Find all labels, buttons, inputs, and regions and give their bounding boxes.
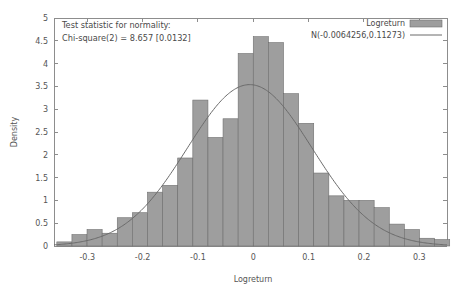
y-tick-label: 0.5 <box>35 219 48 228</box>
y-tick-label: 2.5 <box>35 128 48 137</box>
histogram-bar <box>178 158 193 246</box>
x-tick-label: 0.3 <box>413 253 426 262</box>
x-axis-title: Logreturn <box>234 275 273 284</box>
y-tick-label: 4.5 <box>35 37 48 46</box>
histogram-bar <box>329 196 344 246</box>
y-tick-label: 3.5 <box>35 82 48 91</box>
y-tick-label: 2 <box>43 151 48 160</box>
y-tick-label: 3 <box>43 105 48 114</box>
histogram-bar <box>374 208 389 246</box>
histogram-bar <box>299 123 314 246</box>
y-tick-label: 1 <box>43 196 48 205</box>
histogram-bar <box>117 218 132 246</box>
y-tick-label: 0 <box>43 242 48 251</box>
histogram-bar <box>344 200 359 246</box>
x-tick-label: 0 <box>251 253 256 262</box>
x-tick-label: 0.2 <box>358 253 371 262</box>
histogram-bar <box>163 185 178 246</box>
x-tick-label: -0.3 <box>79 253 95 262</box>
histogram-bar <box>253 37 268 246</box>
histogram-bar <box>314 173 329 246</box>
annotation-line-2: Chi-square(2) = 8.657 [0.0132] <box>62 33 191 43</box>
legend-label-curve: N(-0.0064256,0.11273) <box>311 31 405 40</box>
legend-label-histogram: Logreturn <box>366 19 405 28</box>
histogram-bar <box>223 119 238 246</box>
x-tick-label: -0.1 <box>190 253 206 262</box>
histogram-bar <box>132 213 147 246</box>
histogram-bar <box>87 230 102 246</box>
x-tick-label: -0.2 <box>135 253 151 262</box>
annotation-line-1: Test statistic for normality: <box>61 20 171 30</box>
y-tick-label: 4 <box>43 60 48 69</box>
histogram-bar <box>268 43 283 246</box>
histogram-bar <box>147 192 162 246</box>
y-axis-title: Density <box>10 117 19 148</box>
histogram-bar <box>238 54 253 246</box>
y-tick-label: 5 <box>43 14 48 23</box>
histogram-bar <box>208 137 223 246</box>
histogram-bar <box>359 200 374 246</box>
histogram-chart: 00.511.522.533.544.55-0.3-0.2-0.100.10.2… <box>0 0 466 293</box>
y-tick-label: 1.5 <box>35 174 48 183</box>
histogram-bar <box>72 235 87 246</box>
histogram-bar <box>389 224 404 246</box>
x-tick-label: 0.1 <box>302 253 315 262</box>
legend-swatch-histogram <box>410 20 442 27</box>
histogram-bar <box>193 100 208 246</box>
histogram-bar <box>404 230 419 246</box>
chart-canvas: 00.511.522.533.544.55-0.3-0.2-0.100.10.2… <box>0 0 466 293</box>
